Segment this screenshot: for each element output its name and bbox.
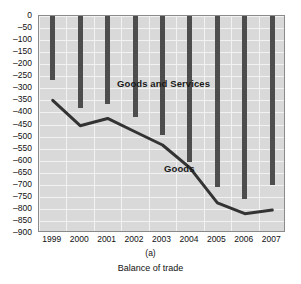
x-axis: 199920002001200220032004200520062007 xyxy=(38,234,285,248)
line-series-goods xyxy=(39,16,285,232)
x-tick-label: 2000 xyxy=(70,234,89,244)
y-tick-label: –100 xyxy=(13,35,32,43)
y-tick-label: –650 xyxy=(13,168,32,176)
y-tick-label: –200 xyxy=(13,59,32,67)
x-tick-label: 2006 xyxy=(234,234,253,244)
y-tick-label: –150 xyxy=(13,47,32,55)
x-tick-label: 2007 xyxy=(262,234,281,244)
y-tick-label: –250 xyxy=(13,71,32,79)
figure-caption: Balance of trade xyxy=(0,263,301,273)
y-tick-label: –500 xyxy=(13,132,32,140)
x-tick-label: 2002 xyxy=(125,234,144,244)
y-tick-label: –50 xyxy=(18,23,32,31)
y-tick-label: –750 xyxy=(13,192,32,200)
y-tick-label: –300 xyxy=(13,83,32,91)
x-tick-label: 2001 xyxy=(97,234,116,244)
y-tick-label: –450 xyxy=(13,120,32,128)
y-tick-label: –900 xyxy=(13,228,32,236)
plot-area: Goods and Services Goods xyxy=(38,15,285,232)
x-tick-label: 2005 xyxy=(207,234,226,244)
x-tick-label: 1999 xyxy=(42,234,61,244)
y-tick-label: –550 xyxy=(13,144,32,152)
x-tick-label: 2004 xyxy=(179,234,198,244)
y-tick-label: 0 xyxy=(27,11,32,19)
y-axis: 0–50–100–150–200–250–300–350–400–450–500… xyxy=(0,15,35,232)
y-tick-label: –400 xyxy=(13,107,32,115)
y-tick-label: –350 xyxy=(13,95,32,103)
series-label-goods-and-services: Goods and Services xyxy=(117,78,210,89)
y-tick-label: –600 xyxy=(13,156,32,164)
series-label-goods: Goods xyxy=(164,163,195,174)
y-tick-label: –800 xyxy=(13,204,32,212)
y-tick-label: –850 xyxy=(13,216,32,224)
panel-label: (a) xyxy=(0,248,301,258)
y-tick-label: –700 xyxy=(13,180,32,188)
balance-of-trade-figure: 0–50–100–150–200–250–300–350–400–450–500… xyxy=(0,0,301,284)
x-tick-label: 2003 xyxy=(152,234,171,244)
